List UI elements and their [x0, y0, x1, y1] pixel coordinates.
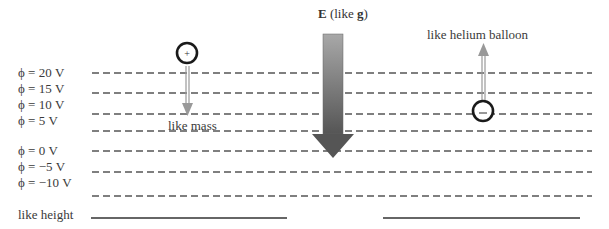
negative-charge-icon — [473, 101, 493, 121]
field-arrow-icon — [312, 34, 354, 158]
potential-label-15v: ϕ = 15 V — [18, 81, 64, 97]
potential-label-neg5v: ϕ = −5 V — [18, 159, 65, 175]
up-force-arrow-icon — [478, 43, 489, 100]
like-mass-caption: like mass — [168, 118, 217, 134]
field-suffix-close: ) — [364, 6, 368, 21]
potential-label-neg10v: ϕ = −10 V — [18, 175, 72, 191]
field-symbol: E — [318, 6, 327, 21]
like-helium-balloon-caption: like helium balloon — [427, 27, 528, 43]
like-height-label: like height — [18, 207, 73, 223]
field-title: E (like g) — [318, 6, 368, 22]
potential-label-10v: ϕ = 10 V — [18, 97, 64, 113]
field-suffix-open: (like — [327, 6, 357, 21]
svg-text:+: + — [184, 48, 190, 59]
potential-label-0v: ϕ = 0 V — [18, 143, 58, 159]
potential-label-20v: ϕ = 20 V — [18, 65, 64, 81]
potential-label-5v: ϕ = 5 V — [18, 113, 58, 129]
positive-charge-icon: + — [177, 43, 197, 63]
